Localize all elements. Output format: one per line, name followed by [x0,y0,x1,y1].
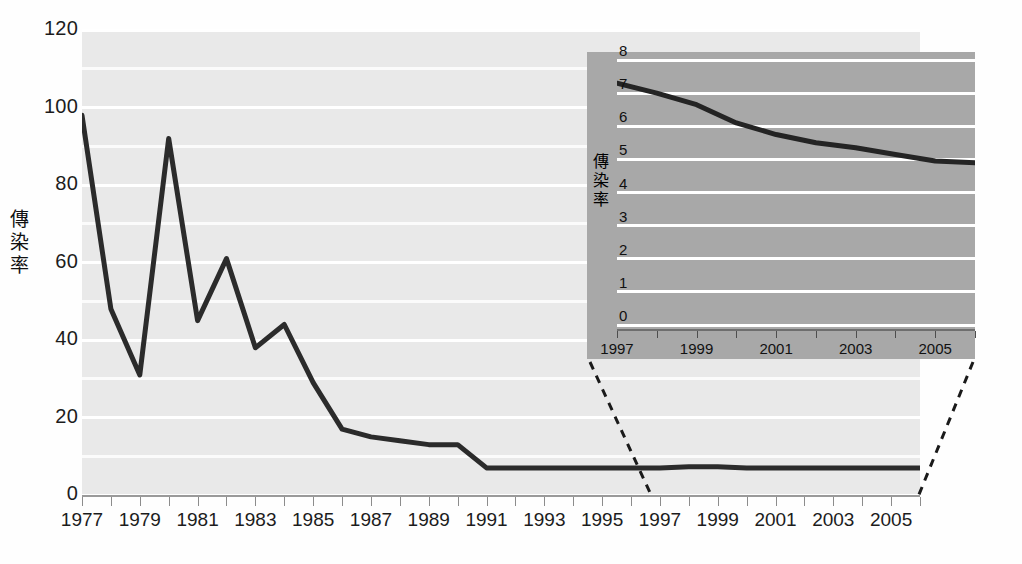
x-axis-tick-label: 1979 [119,509,161,531]
main-chart-x-axis-labels: 1977197919811983198519871989199119931995… [0,509,1022,539]
x-axis-tick [856,331,857,338]
y-axis-tick-label: 80 [32,172,78,195]
x-axis-tick [689,497,690,506]
inset-chart: 876543210 傳染率 19971999200120032005 [587,52,975,359]
x-axis-tick-label: 1991 [465,509,507,531]
x-axis-tick [617,331,618,338]
inset-chart-line-series [617,60,975,325]
y-axis-tick-label: 1 [619,274,641,291]
y-axis-tick-label: 4 [619,175,641,192]
inset-chart-x-axis-labels: 19971999200120032005 [587,340,975,360]
x-axis-tick [226,497,227,506]
x-axis-tick [816,331,817,338]
x-axis-tick [718,497,719,506]
y-axis-tick-label: 40 [32,327,78,350]
chart-figure: 120100806040200 傳染率 19771979198119831985… [0,0,1022,564]
main-chart-x-axis-ticks [82,497,920,507]
x-axis-tick [975,331,976,338]
x-axis-tick-label: 1977 [61,509,103,531]
x-axis-tick [515,497,516,506]
x-axis-tick-label: 2003 [812,509,854,531]
x-axis-tick [487,497,488,506]
x-axis-tick [313,497,314,506]
x-axis-tick [891,497,892,506]
inset-chart-plot-area [617,60,975,325]
x-axis-tick-label: 2001 [759,340,792,357]
inset-chart-y-axis-title: 傳染率 [591,152,611,209]
x-axis-tick [736,331,737,338]
x-axis-tick [833,497,834,506]
inset-connector-right [918,362,973,497]
x-axis-tick [920,497,921,506]
x-axis-tick [602,497,603,506]
y-axis-tick-label: 2 [619,241,641,258]
main-chart-y-axis-title: 傳染率 [6,208,32,277]
x-axis-tick-label: 1997 [639,509,681,531]
x-axis-tick [111,497,112,506]
x-axis-tick-label: 1981 [176,509,218,531]
x-axis-tick [573,497,574,506]
x-axis-tick-label: 2001 [754,509,796,531]
x-axis-tick-label: 2005 [870,509,912,531]
x-axis-tick-label: 1989 [408,509,450,531]
x-axis-tick [631,497,632,506]
inset-chart-x-axis-ticks [617,331,975,339]
x-axis-tick [169,497,170,506]
y-axis-tick-label: 0 [619,307,641,324]
y-axis-tick-label: 7 [619,75,641,92]
x-axis-tick-label: 1985 [292,509,334,531]
x-axis-tick [660,497,661,506]
y-axis-tick-label: 120 [32,17,78,40]
x-axis-tick-label: 2003 [839,340,872,357]
x-axis-tick-label: 1983 [234,509,276,531]
y-axis-tick-label: 100 [32,95,78,118]
x-axis-tick-label: 1995 [581,509,623,531]
y-axis-tick-label: 0 [32,482,78,505]
x-axis-tick [458,497,459,506]
x-axis-tick [697,331,698,338]
x-axis-tick [140,497,141,506]
x-axis-tick [82,497,83,506]
x-axis-tick [895,331,896,338]
x-axis-tick [342,497,343,506]
x-axis-tick-label: 1997 [600,340,633,357]
x-axis-tick-label: 1993 [523,509,565,531]
y-axis-tick-label: 3 [619,208,641,225]
x-axis-tick-label: 2005 [919,340,952,357]
x-axis-tick-label: 1987 [350,509,392,531]
y-axis-tick-label: 20 [32,405,78,428]
x-axis-tick [371,497,372,506]
x-axis-tick-label: 1999 [680,340,713,357]
x-axis-tick-label: 1999 [697,509,739,531]
x-axis-tick [657,331,658,338]
x-axis-tick [544,497,545,506]
x-axis-tick [804,497,805,506]
y-axis-tick-label: 60 [32,250,78,273]
x-axis-tick [255,497,256,506]
inset-chart-y-axis-labels: 876543210 [619,60,641,325]
x-axis-tick [862,497,863,506]
y-axis-tick-label: 6 [619,108,641,125]
x-axis-tick [747,497,748,506]
y-axis-tick-label: 8 [619,42,641,59]
x-axis-tick [935,331,936,338]
x-axis-tick [400,497,401,506]
x-axis-tick [776,331,777,338]
y-axis-tick-label: 5 [619,141,641,158]
x-axis-tick [198,497,199,506]
x-axis-tick [284,497,285,506]
x-axis-tick [429,497,430,506]
x-axis-tick [776,497,777,506]
